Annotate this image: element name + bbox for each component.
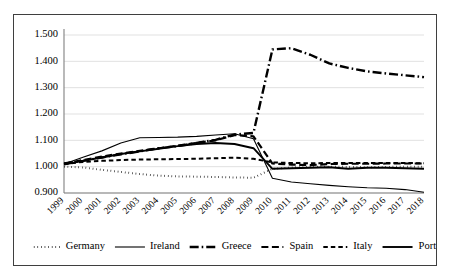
- y-axis-tick-label: 1.400: [34, 55, 58, 66]
- x-axis-tick-label: 2014: [329, 195, 350, 216]
- x-axis-tick-label: 2009: [234, 195, 255, 216]
- x-axis-tick-label: 1999: [45, 195, 66, 216]
- y-axis-tick-label: 1.300: [34, 81, 58, 92]
- x-axis-tick-label: 2003: [121, 195, 142, 216]
- x-axis-tick-label: 2002: [102, 195, 123, 216]
- chart-legend: GermanyIrelandGreeceSpainItalyPortugal: [34, 240, 436, 251]
- data-series: [64, 48, 424, 192]
- chart-figure: 1.5001.4001.3001.2001.1001.0000.900 1999…: [13, 14, 437, 266]
- legend-label-ireland: Ireland: [150, 240, 180, 251]
- x-axis-tick-label: 2006: [178, 195, 199, 216]
- gridlines: [64, 35, 424, 193]
- x-axis-tick-label: 2012: [291, 195, 312, 216]
- x-axis-tick-label: 2008: [215, 195, 236, 216]
- y-axis-tick-label: 1.200: [34, 107, 58, 118]
- x-axis-tick-labels: 1999200020012002200320042005200620072008…: [45, 195, 426, 216]
- legend-label-germany: Germany: [66, 240, 106, 251]
- y-axis-tick-label: 1.100: [34, 134, 58, 145]
- x-axis-tick-label: 2004: [140, 195, 161, 216]
- x-axis-tick-label: 2016: [367, 195, 388, 216]
- x-axis-tick-label: 2000: [64, 195, 85, 216]
- x-axis-tick-label: 2010: [253, 195, 274, 216]
- y-axis-tick-label: 0.900: [34, 186, 58, 197]
- y-axis-tick-labels: 1.5001.4001.3001.2001.1001.0000.900: [34, 28, 58, 197]
- series-line-italy: [64, 158, 424, 164]
- x-axis-tick-label: 2001: [83, 195, 104, 216]
- x-axis-tick-label: 2011: [273, 195, 293, 215]
- series-line-ireland: [64, 134, 424, 192]
- legend-label-greece: Greece: [222, 240, 252, 251]
- line-chart: 1.5001.4001.3001.2001.1001.0000.900 1999…: [14, 15, 436, 265]
- legend-label-portugal: Portugal: [419, 240, 436, 251]
- legend-label-spain: Spain: [289, 240, 314, 251]
- x-axis-tick-label: 2007: [196, 195, 217, 216]
- legend-label-italy: Italy: [353, 240, 373, 251]
- x-axis-tick-label: 2005: [159, 195, 180, 216]
- x-axis-tick-label: 2013: [310, 195, 331, 216]
- y-axis-tick-label: 1.500: [34, 28, 58, 39]
- x-axis-tick-label: 2017: [386, 195, 407, 216]
- x-axis-tick-label: 2015: [348, 195, 369, 216]
- x-axis-tick-label: 2018: [405, 195, 426, 216]
- y-axis-tick-label: 1.000: [34, 160, 58, 171]
